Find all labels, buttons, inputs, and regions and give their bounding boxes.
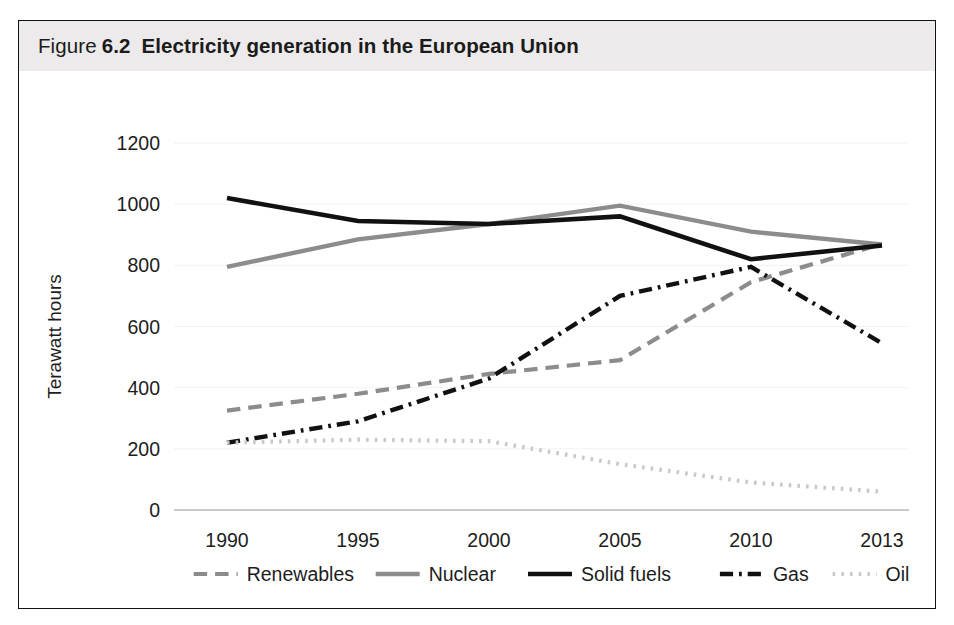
y-tick-labels: 020040060080010001200 [117,132,161,521]
legend-label-renewables: Renewables [247,563,355,585]
y-tick-label: 200 [127,438,160,460]
x-tick-label: 1990 [205,529,249,551]
series-line-oil [227,440,882,492]
series-line-gas [227,267,882,443]
figure-frame: Figure6.2Electricity generation in the E… [18,20,936,609]
x-tick-label: 2013 [860,529,903,551]
y-tick-label: 800 [127,254,160,276]
series-line-renewables [227,244,882,411]
figure-title-band: Figure6.2Electricity generation in the E… [19,21,935,71]
x-tick-labels: 199019952000200520102013 [205,529,903,551]
x-tick-label: 2010 [729,529,773,551]
series-line-solid-fuels [227,198,882,259]
y-axis-title: Terawatt hours [44,274,65,399]
line-chart: 020040060080010001200 199019952000200520… [19,71,934,610]
legend-label-gas: Gas [773,563,809,585]
figure-caption: Electricity generation in the European U… [142,34,579,57]
x-tick-label: 1995 [336,529,380,551]
y-tick-label: 0 [149,499,160,521]
figure-screenshot: Figure6.2Electricity generation in the E… [0,0,954,625]
x-tick-label: 2005 [598,529,642,551]
figure-title: Figure6.2Electricity generation in the E… [38,34,579,58]
plot-area: 020040060080010001200 199019952000200520… [19,71,935,610]
chart-legend: RenewablesNuclearSolid fuelsGasOil [194,563,910,585]
y-tick-label: 400 [127,377,160,399]
y-tick-label: 600 [127,316,160,338]
figure-label-word: Figure [38,34,97,57]
legend-label-oil: Oil [886,563,910,585]
x-tick-label: 2000 [467,529,511,551]
legend-label-solid-fuels: Solid fuels [581,563,671,585]
y-tick-label: 1000 [117,193,161,215]
gridlines [174,143,909,510]
y-tick-label: 1200 [117,132,161,154]
legend-label-nuclear: Nuclear [429,563,497,585]
figure-number: 6.2 [102,34,131,57]
data-series-group [227,198,882,492]
